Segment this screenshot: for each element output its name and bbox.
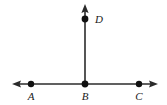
- point-C-group: C: [135, 81, 143, 102]
- point-B-dot: [82, 81, 89, 88]
- point-B-label: B: [82, 90, 89, 102]
- point-D-label: D: [94, 13, 103, 25]
- point-D-dot: [82, 16, 89, 23]
- point-C-label: C: [135, 90, 143, 102]
- point-B-group: B: [82, 81, 89, 102]
- point-A-label: A: [27, 90, 35, 102]
- point-C-dot: [136, 81, 142, 87]
- figure-canvas: A B C D: [0, 0, 167, 105]
- point-A-group: A: [27, 81, 35, 102]
- point-A-dot: [28, 81, 34, 87]
- geometry-figure: A B C D: [0, 0, 167, 105]
